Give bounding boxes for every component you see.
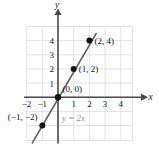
equation-label: y = 2x <box>61 113 85 123</box>
data-point-label-1-2: (1, 2) <box>79 64 99 74</box>
x-tick-label-neg1: −1 <box>38 99 48 109</box>
data-point-label-2-4: (2, 4) <box>95 36 115 46</box>
data-point-0-0 <box>55 94 61 100</box>
data-point-1-2 <box>71 66 77 72</box>
x-tick-label-neg2: −2 <box>22 99 32 109</box>
x-axis-arrow <box>141 94 148 101</box>
data-point-neg1-neg2 <box>39 123 45 129</box>
x-tick-label-2: 2 <box>87 99 92 109</box>
x-axis-label: x <box>147 92 153 102</box>
graph-figure: y x 4 3 2 1 −2 −1 1 2 3 4 y = 2x (2, 4) … <box>0 0 159 148</box>
y-tick-label-2: 2 <box>50 64 55 74</box>
y-tick-label-4: 4 <box>50 36 55 46</box>
data-point-label-neg1-neg2: (−1, −2) <box>8 112 38 122</box>
x-tick-label-4: 4 <box>119 99 124 109</box>
data-point-2-4 <box>86 38 92 44</box>
x-tick-label-3: 3 <box>103 99 108 109</box>
y-axis <box>54 9 61 144</box>
y-tick-label-3: 3 <box>50 50 55 60</box>
data-point-label-0-0: (0, 0) <box>63 84 83 94</box>
y-tick-label-1: 1 <box>50 79 55 89</box>
coordinate-plane-svg: y x 4 3 2 1 −2 −1 1 2 3 4 y = 2x (2, 4) … <box>0 0 159 148</box>
y-axis-label: y <box>54 0 60 10</box>
x-tick-label-1: 1 <box>71 99 76 109</box>
